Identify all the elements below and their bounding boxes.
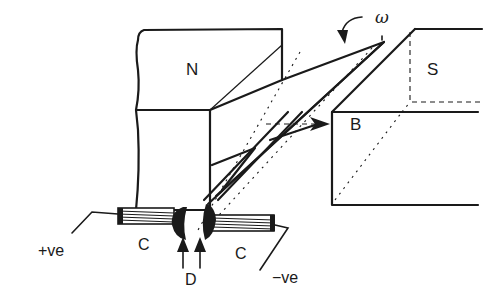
- field-label: B: [350, 115, 361, 134]
- commutator-arrow-right-icon: [194, 237, 206, 252]
- south-pole-label: S: [427, 60, 438, 79]
- left-brush: [72, 208, 174, 233]
- rotation-arrowhead-icon: [337, 30, 348, 44]
- north-magnet: N: [136, 29, 282, 210]
- left-brush-label: C: [138, 236, 150, 253]
- commutator-arrow-left-icon: [177, 237, 189, 252]
- rotation-indicator: ω: [337, 7, 389, 44]
- commutator-label: D: [185, 271, 197, 288]
- dc-machine-diagram: N S B ω: [0, 0, 504, 300]
- north-pole-label: N: [186, 60, 198, 79]
- coil: [198, 42, 384, 230]
- right-brush: [212, 215, 288, 270]
- commutator: [172, 204, 216, 268]
- south-magnet: S B: [332, 29, 482, 205]
- omega-label: ω: [375, 7, 389, 27]
- negative-terminal-label: −ve: [272, 269, 298, 286]
- field-arrow: [266, 117, 330, 131]
- right-brush-label: C: [235, 245, 247, 262]
- positive-terminal-label: +ve: [38, 242, 64, 259]
